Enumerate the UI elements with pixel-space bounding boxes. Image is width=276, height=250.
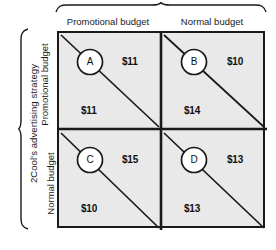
column-header-promotional-budget: Promotional budget: [57, 16, 159, 27]
payoff-d-lower-left: $13: [184, 203, 200, 214]
payoff-b-lower-left: $14: [184, 105, 200, 116]
cell-label-a: A: [78, 56, 102, 67]
column-group-brace: [55, 2, 267, 14]
diagonal-cell-b: [164, 35, 264, 127]
row-header-normal-budget: Normal budget: [45, 135, 56, 233]
payoff-b-upper-right: $10: [227, 56, 243, 67]
payoff-d-upper-right: $13: [227, 154, 243, 165]
diagonal-cell-c: [61, 133, 159, 228]
cell-label-d: D: [182, 154, 206, 165]
diagonal-cell-d: [164, 133, 264, 228]
column-header-normal-budget: Normal budget: [159, 16, 265, 27]
row-group-label: 2Cool's advertising strategy: [28, 29, 39, 219]
cell-label-c: C: [78, 154, 102, 165]
row-header-promotional-budget: Promotional budget: [39, 36, 50, 134]
matrix-grid: A $11 $11 B $10 $14 C $15 $10 D $13 $13: [57, 31, 265, 228]
payoff-c-upper-right: $15: [122, 154, 138, 165]
payoff-c-lower-left: $10: [81, 203, 97, 214]
payoff-a-upper-right: $11: [122, 56, 138, 67]
diagonal-cell-a: [61, 35, 159, 127]
payoff-matrix-figure: 2Cool's advertising strategy Promotional…: [0, 0, 276, 250]
payoff-a-lower-left: $11: [81, 105, 97, 116]
cell-label-b: B: [182, 56, 206, 67]
